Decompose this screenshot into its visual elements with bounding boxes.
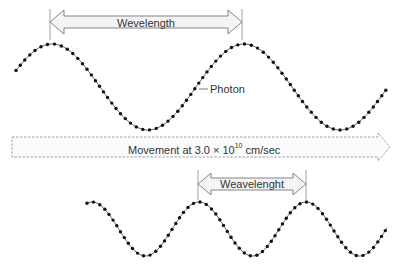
top-wavelength-arrow: Wevelength (50, 9, 242, 40)
top-sine-wave (14, 42, 387, 131)
movement-label: Movement at 3.0 × 1010cm/sec (128, 142, 281, 156)
bottom-sine-wave (85, 200, 387, 257)
bottom-wavelength-label: Weavelenght (220, 178, 284, 190)
top-wavelength-label: Wevelength (117, 17, 175, 29)
bottom-wavelength-arrow: Weavelenght (198, 170, 306, 200)
movement-arrow: Movement at 3.0 × 1010cm/sec (12, 133, 390, 161)
photon-callout: Photon (199, 83, 245, 95)
photon-wave-diagram: Wevelength Photon Movement at 3.0 × 1010… (0, 0, 403, 271)
photon-label: Photon (210, 83, 245, 95)
